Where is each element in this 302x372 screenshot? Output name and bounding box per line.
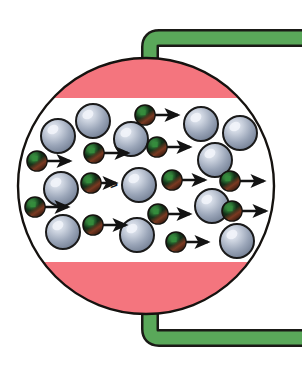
particle-highlight-6 — [225, 176, 230, 181]
sphere-body-2 — [114, 122, 148, 156]
vesicle-diagram: > — [0, 0, 302, 372]
particle-highlight-7 — [30, 202, 35, 207]
sphere-body-4 — [223, 116, 257, 150]
sphere-body-7 — [122, 168, 156, 202]
sphere-body-5 — [44, 172, 78, 206]
particle — [220, 171, 240, 191]
sphere — [184, 107, 218, 141]
particle — [84, 143, 104, 163]
particle — [162, 170, 182, 190]
sphere — [76, 104, 110, 138]
sphere-body-10 — [120, 218, 154, 252]
particle-highlight-10 — [227, 206, 232, 211]
particle-highlight-1 — [89, 148, 94, 153]
particle — [25, 197, 45, 217]
sphere — [44, 172, 78, 206]
particle-highlight-5 — [167, 175, 172, 180]
particle — [81, 173, 101, 193]
particle-highlight-4 — [86, 178, 91, 183]
small-chevron-marker: > — [110, 177, 118, 192]
sphere-body-11 — [220, 224, 254, 258]
particle — [27, 151, 47, 171]
sphere-body-8 — [46, 215, 80, 249]
particle — [222, 201, 242, 221]
particle-highlight-2 — [140, 110, 145, 115]
sphere — [122, 168, 156, 202]
particle-highlight-11 — [171, 237, 176, 242]
particle — [83, 215, 103, 235]
particle — [135, 105, 155, 125]
sphere-body-0 — [41, 119, 75, 153]
particle — [148, 204, 168, 224]
sphere — [220, 224, 254, 258]
particle-highlight-8 — [88, 220, 93, 225]
particle — [166, 232, 186, 252]
particle — [147, 137, 167, 157]
sphere — [120, 218, 154, 252]
sphere — [114, 122, 148, 156]
particle-highlight-0 — [32, 156, 37, 161]
diagram-canvas: > — [0, 0, 302, 372]
sphere — [41, 119, 75, 153]
sphere — [46, 215, 80, 249]
sphere-body-1 — [76, 104, 110, 138]
sphere-body-3 — [184, 107, 218, 141]
particle-highlight-3 — [152, 142, 157, 147]
sphere — [223, 116, 257, 150]
particle-highlight-9 — [153, 209, 158, 214]
